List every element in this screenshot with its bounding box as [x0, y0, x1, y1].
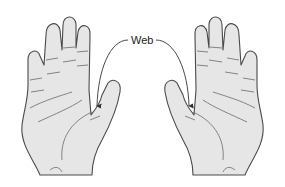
left-hand	[22, 17, 120, 175]
web-label: Web	[131, 34, 153, 46]
hands-illustration	[0, 0, 285, 187]
hands-web-diagram: Web	[0, 0, 285, 187]
right-hand	[165, 17, 263, 175]
